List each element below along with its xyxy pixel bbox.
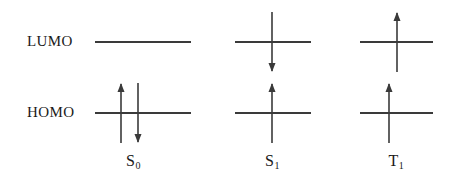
- state-label-subscript-t1: 1: [399, 160, 404, 171]
- orbital-energy-diagram: LUMO HOMO S0S1T1: [0, 0, 468, 181]
- state-label-symbol-s1: S: [265, 152, 274, 169]
- electron-spin-arrow-up-homo-s1: [263, 83, 281, 143]
- electron-spin-arrow-up-lumo-t1: [388, 12, 406, 72]
- state-label-subscript-s0: 0: [135, 160, 140, 171]
- electron-spin-arrow-down-lumo-s1: [263, 12, 281, 72]
- energy-level-label-lumo: LUMO: [27, 33, 73, 50]
- electron-spin-arrow-up-homo-s0: [112, 83, 130, 143]
- state-label-subscript-s1: 1: [274, 160, 279, 171]
- state-label-symbol-t1: T: [389, 152, 399, 169]
- state-label-s0: S0: [126, 152, 140, 170]
- state-label-t1: T1: [389, 152, 404, 170]
- orbital-level-line-lumo-s0: [95, 41, 191, 43]
- electron-spin-arrow-up-homo-t1: [380, 83, 398, 143]
- state-label-s1: S1: [265, 152, 279, 170]
- state-label-symbol-s0: S: [126, 152, 135, 169]
- electron-spin-arrow-down-homo-s0: [129, 83, 147, 143]
- energy-level-label-homo: HOMO: [27, 104, 74, 121]
